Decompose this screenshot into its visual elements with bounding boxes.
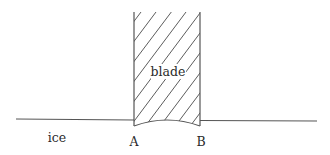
blade-on-ice-diagram: blade ice A B (0, 0, 330, 155)
ice-label: ice (48, 130, 66, 145)
point-a-label: A (128, 134, 139, 149)
ice-surface-line-left (16, 119, 134, 120)
blade-bottom-arc (134, 120, 200, 126)
ice-surface-line-right (200, 121, 317, 122)
blade-label: blade (151, 64, 186, 79)
point-b-label: B (196, 134, 205, 149)
